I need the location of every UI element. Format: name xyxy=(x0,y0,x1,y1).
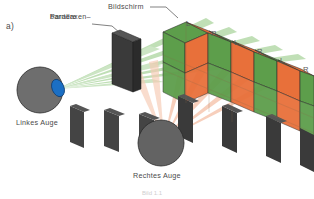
strip-marker-l-2: L xyxy=(234,39,238,47)
figure-caption: Bild 1.1 xyxy=(142,190,162,197)
right-eye-label: Rechtes Auge xyxy=(133,171,181,180)
screen-label: Bildschirm xyxy=(108,2,144,11)
left-eye-graphic xyxy=(17,67,67,113)
strip-marker-l-4: L xyxy=(280,57,284,65)
left-eye-label: Linkes Auge xyxy=(16,118,58,127)
strip-marker-l-0: L xyxy=(186,20,190,28)
panel-label: a) xyxy=(6,22,14,31)
strip-marker-r-3: R xyxy=(257,48,262,56)
barrier-label: Parallaxen– barriere xyxy=(50,12,77,21)
strip-marker-r-5: R xyxy=(303,66,308,74)
strip-marker-r-1: R xyxy=(211,30,216,38)
leader-line-screen xyxy=(150,7,178,18)
figure-canvas: a) Bildschirm Parallaxen– barriere Linke… xyxy=(0,0,314,199)
barrier-label-line2: barriere xyxy=(50,12,77,21)
right-eye-graphic xyxy=(138,120,184,166)
parallax-barrier-diagram xyxy=(0,0,314,199)
